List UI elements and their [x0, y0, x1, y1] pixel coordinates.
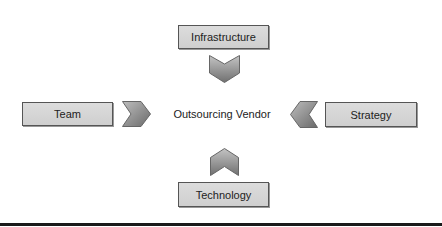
center-label-outsourcing-vendor: Outsourcing Vendor [160, 108, 284, 120]
chevron-down-icon [209, 55, 240, 83]
chevron-up-icon [210, 148, 239, 176]
node-team: Team [22, 102, 113, 126]
chevron-left-icon [290, 101, 318, 128]
node-technology: Technology [178, 182, 269, 207]
node-infrastructure: Infrastructure [178, 25, 269, 49]
node-strategy-label: Strategy [351, 109, 392, 121]
node-infrastructure-label: Infrastructure [191, 31, 256, 43]
node-team-label: Team [54, 108, 81, 120]
chevron-right-icon [122, 101, 151, 127]
bottom-divider [0, 223, 442, 226]
node-technology-label: Technology [196, 189, 252, 201]
node-strategy: Strategy [325, 102, 417, 127]
